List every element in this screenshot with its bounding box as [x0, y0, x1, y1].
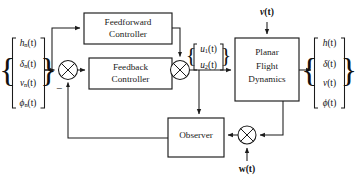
- output-vector-item-v: v(t): [323, 78, 336, 89]
- junction-error-sum[interactable]: [59, 61, 78, 80]
- negative-feedback-sign: −: [56, 82, 62, 94]
- process-disturbance-label: ν(t): [260, 6, 274, 18]
- control-vector-item-u2: u2(t): [200, 60, 217, 71]
- planar-flight-dynamics-label-line-2: Flight: [256, 61, 278, 71]
- output-vector-right-brace: }: [341, 51, 357, 88]
- planar-flight-dynamics-label-line-1: Planar: [255, 47, 278, 57]
- block-planar-flight-dynamics[interactable]: Planar Flight Dynamics: [235, 38, 299, 101]
- control-vector-left-brace: {: [186, 42, 197, 67]
- planar-flight-dynamics-label-line-3: Dynamics: [248, 74, 286, 84]
- feedforward-controller-label-line-1: Feedforward: [105, 17, 152, 27]
- reference-vector-item-phi: ϕn(t): [20, 98, 37, 109]
- feedforward-controller-label-line-2: Controller: [109, 29, 147, 39]
- connection-plant-to-measurement-sum: [260, 101, 283, 135]
- control-vector-right-brace: }: [221, 42, 232, 67]
- reference-vector-right-brace: }: [40, 51, 56, 88]
- connection-observer-to-error-sum: [68, 83, 168, 139]
- output-vector-item-phi: ϕ(t): [323, 98, 337, 109]
- feedback-controller-label-line-1: Feedback: [113, 62, 149, 72]
- block-observer[interactable]: Observer: [168, 118, 224, 157]
- output-vector-item-delta: δ(t): [323, 59, 336, 70]
- output-vector-left-brace: {: [301, 51, 317, 88]
- junction-measurement-sum[interactable]: [238, 126, 256, 144]
- control-input-vector: { } u1(t) u2(t): [186, 42, 232, 71]
- output-vector-item-h: h(t): [323, 38, 337, 49]
- block-diagram-canvas: Feedforward Controller Feedback Controll…: [0, 0, 357, 180]
- reference-vector-item-v: vn(t): [20, 78, 36, 89]
- block-feedback-controller[interactable]: Feedback Controller: [89, 58, 172, 89]
- diagram-svg: Feedforward Controller Feedback Controll…: [0, 0, 357, 180]
- control-vector-item-u1: u1(t): [200, 44, 217, 55]
- reference-vector-left-brace: {: [0, 51, 16, 88]
- block-feedforward-controller[interactable]: Feedforward Controller: [84, 13, 172, 44]
- reference-vector-item-h: hn(t): [20, 38, 37, 49]
- connection-feedforward-to-control-sum: [172, 28, 180, 57]
- feedback-controller-label-line-2: Controller: [112, 74, 150, 84]
- observer-label: Observer: [179, 130, 213, 140]
- reference-input-vector: { } hn(t) δn(t) vn(t) ϕn(t): [0, 38, 57, 109]
- measurement-noise-label: w(t): [239, 163, 256, 175]
- output-state-vector: { } h(t) δ(t) v(t) ϕ(t): [301, 38, 357, 109]
- reference-vector-item-delta: δn(t): [20, 59, 36, 70]
